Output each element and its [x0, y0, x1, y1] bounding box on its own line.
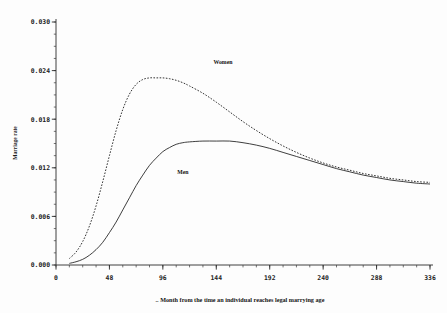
y-axis-title: Marriage rate: [12, 126, 18, 160]
x-axis-tick-label: 288: [371, 274, 383, 282]
x-axis-tick-label: 96: [159, 274, 167, 282]
x-axis-tick-label: 192: [264, 274, 276, 282]
y-axis-tick-label: 0.018: [31, 116, 50, 124]
y-axis-tick-label: 0.030: [31, 18, 50, 26]
series-label-women: Women: [213, 59, 233, 65]
x-axis-tick-label: 0: [54, 274, 58, 282]
x-axis-tick-label: 48: [106, 274, 114, 282]
y-axis-tick-label: 0.006: [31, 213, 50, 221]
x-axis-caption: .. Month from the time an individual rea…: [156, 296, 325, 303]
marriage-rate-line-chart: 0.0000.0060.0120.0180.0240.030 048961441…: [0, 0, 447, 313]
y-axis-tick-label: 0.000: [31, 261, 50, 269]
x-axis-tick-label: 144: [211, 274, 223, 282]
series-label-men: Men: [177, 169, 189, 175]
chart-background: [0, 0, 447, 313]
y-axis-tick-label: 0.012: [31, 164, 50, 172]
x-axis-tick-label: 336: [424, 274, 436, 282]
marriage-rate-chart-figure: 0.0000.0060.0120.0180.0240.030 048961441…: [0, 0, 447, 313]
y-axis-tick-label: 0.024: [31, 67, 50, 75]
x-axis-tick-label: 240: [317, 274, 329, 282]
